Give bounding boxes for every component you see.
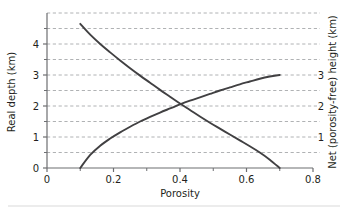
y-right-tick-label-1: 1 [318, 132, 324, 143]
x-tick-label-0: 0 [44, 174, 50, 185]
porosity-depth-chart: 01234 00.20.40.60.8 123 Porosity Real de… [0, 0, 348, 210]
y-axis-title-left: Real depth (km) [6, 52, 17, 132]
y-tick-label-3: 3 [33, 70, 39, 81]
x-axis-title: Porosity [160, 188, 200, 199]
y-axis-title-right: Net (porosity-free) height (km) [327, 15, 338, 169]
x-tick-label-0.2: 0.2 [106, 174, 122, 185]
y-tick-label-4: 4 [33, 39, 39, 50]
y-tick-label-0: 0 [33, 163, 39, 174]
x-tick-label-0.4: 0.4 [172, 174, 188, 185]
y-axis-right-tick-labels: 123 [318, 70, 324, 143]
y-tick-label-1: 1 [33, 132, 39, 143]
y-right-tick-label-2: 2 [318, 101, 324, 112]
chart-figure: 01234 00.20.40.60.8 123 Porosity Real de… [0, 0, 348, 210]
x-tick-label-0.6: 0.6 [239, 174, 255, 185]
x-tick-label-0.8: 0.8 [305, 174, 321, 185]
y-tick-label-2: 2 [33, 101, 39, 112]
y-right-tick-label-3: 3 [318, 70, 324, 81]
